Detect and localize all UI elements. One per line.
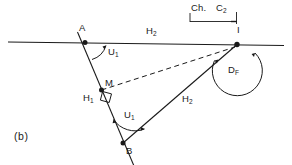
label-angle-u1-bottom-subscript: 1: [131, 114, 135, 121]
panel-label: (b): [14, 131, 29, 142]
label-angle-df-subscript: F: [235, 69, 239, 76]
label-angle-u1-bottom: U1: [124, 110, 135, 120]
label-side-h2-top-subscript: 2: [153, 30, 157, 37]
label-dimension-c2: C2: [216, 3, 227, 13]
angle-arc-u1-at-a: [92, 46, 106, 60]
label-side-h1: H1: [83, 93, 94, 103]
segment-m-to-i-dashed: [102, 47, 236, 90]
label-side-h1-subscript: 1: [90, 97, 94, 104]
label-point-a: A: [79, 23, 86, 33]
angle-arrowhead-df-end: [252, 53, 255, 57]
point-marker-a: [83, 40, 88, 45]
label-angle-u1-top: U1: [108, 47, 119, 57]
label-dimension-c2-subscript: 2: [223, 7, 227, 14]
segment-b-to-i: [123, 45, 237, 144]
datum-horizontal-line: [8, 42, 284, 46]
label-point-b: B: [126, 146, 133, 156]
label-point-i: I: [237, 25, 240, 35]
label-point-m: M: [105, 78, 113, 88]
label-angle-u1-top-subscript: 1: [115, 51, 119, 58]
point-marker-b: [121, 141, 126, 146]
point-marker-i: [234, 42, 239, 47]
figure-container: A M B I U1 U1 H1 H2 H2 DF Ch. C2 (b): [0, 0, 292, 165]
label-side-h2-right-subscript: 2: [189, 98, 193, 105]
label-angle-df: DF: [228, 65, 239, 75]
label-side-h2-right: H2: [182, 94, 193, 104]
point-marker-m: [99, 88, 104, 93]
dimension-bracket-ch-c2: [190, 12, 237, 24]
label-side-h2-top: H2: [146, 26, 157, 36]
label-dimension-ch: Ch.: [191, 3, 206, 13]
